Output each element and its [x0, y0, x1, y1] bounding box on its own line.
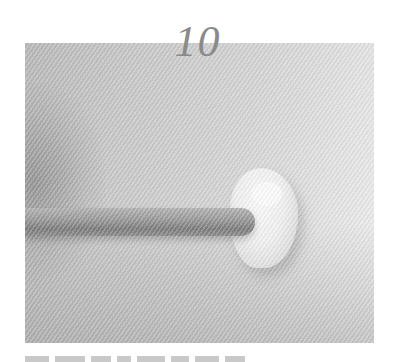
caption-text-cut-off [25, 356, 245, 362]
caption-fragment [55, 356, 85, 362]
caption-fragment [171, 356, 189, 362]
caption-fragment [225, 356, 245, 362]
step-number: 10 [0, 18, 395, 66]
wooden-dowel [25, 208, 255, 236]
caption-fragment [25, 356, 49, 362]
caption-fragment [137, 356, 165, 362]
caption-fragment [91, 356, 111, 362]
caption-fragment [117, 356, 131, 362]
caption-fragment [195, 356, 219, 362]
instruction-photo [25, 43, 374, 343]
surface-shading [25, 223, 374, 343]
